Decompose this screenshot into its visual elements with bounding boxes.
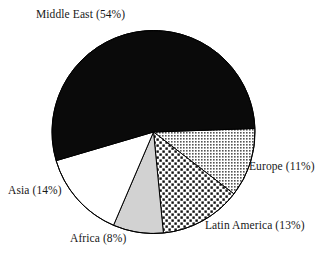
pie-label-africa: Africa (8%)	[70, 232, 126, 245]
pie-label-europe: Europe (11%)	[249, 160, 315, 173]
pie-label-latin-america: Latin America (13%)	[205, 219, 305, 232]
pie-label-asia: Asia (14%)	[8, 184, 62, 197]
pie-label-middle-east: Middle East (54%)	[36, 8, 125, 21]
pie-chart-figure: Middle East (54%) Europe (11%) Latin Ame…	[0, 0, 332, 262]
